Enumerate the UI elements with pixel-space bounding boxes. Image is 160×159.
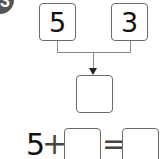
number-box-left: 5 — [39, 3, 76, 41]
number-left: 5 — [49, 7, 66, 38]
equation-result-box[interactable] — [122, 128, 159, 159]
arrow-down-icon — [89, 68, 97, 75]
number-box-right: 3 — [111, 3, 148, 41]
sum-answer-box[interactable] — [76, 75, 113, 113]
equation-addend-box[interactable] — [64, 128, 101, 159]
number-right: 3 — [121, 7, 138, 38]
connector-horizontal — [57, 52, 131, 53]
problem-number: 3 — [0, 0, 10, 12]
problem-number-badge: 3 — [0, 0, 14, 14]
